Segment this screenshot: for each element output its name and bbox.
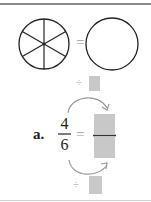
bottom-divider [0, 200, 151, 201]
divisor-top-input[interactable] [89, 76, 100, 91]
divide-top-symbol: ÷ [76, 76, 82, 88]
problem-label: a. [33, 126, 44, 143]
top-arrow-icon [68, 98, 109, 113]
answer-numerator-input[interactable] [94, 114, 115, 134]
divisor-bottom-input[interactable] [89, 176, 102, 194]
numerator: 4 [59, 115, 70, 133]
bottom-arrow-icon [69, 160, 107, 174]
equals-sign: = [76, 126, 84, 143]
divide-bottom-symbol: ÷ [73, 178, 79, 190]
six-part-circle-icon [19, 19, 69, 69]
denominator: 6 [59, 136, 70, 154]
answer-denominator-input[interactable] [94, 137, 115, 158]
diagram [0, 0, 151, 202]
figure-equals-sign: = [76, 34, 84, 51]
empty-circle-icon [86, 18, 138, 70]
